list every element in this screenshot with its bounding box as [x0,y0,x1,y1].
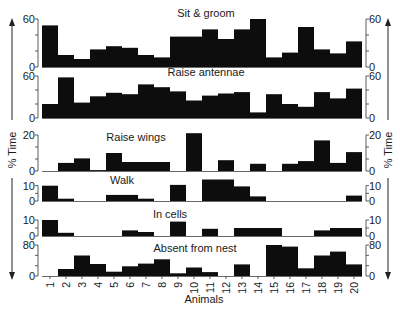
arrow-down-icon [385,272,391,280]
bar [122,195,138,201]
y-tick-label: 0 [369,195,375,207]
x-axis-title: Animals [184,293,224,305]
bar [138,162,154,171]
x-tick-label: 1 [44,282,56,288]
bar [106,272,122,276]
bar [314,49,330,67]
bar [314,92,330,118]
y-tick-label: 0 [369,165,375,177]
x-tick-label: 16 [284,282,296,294]
bar [250,196,266,201]
bar [266,228,282,236]
y-tick-label: 60 [23,13,35,25]
bar [266,57,282,67]
x-tick-label: 17 [300,282,312,294]
x-tick-label: 10 [188,282,200,294]
y-tick-label: 20 [369,129,381,141]
multi-panel-bar-chart: 060060Sit & groom060060Raise antennae020… [0,0,400,313]
panel-title: Absent from nest [153,242,236,254]
bar [122,230,138,236]
panel-title: In cells [153,208,188,220]
bar [234,264,250,276]
y-tick-label: 10 [23,180,35,192]
bar [58,163,74,171]
bar [346,264,362,276]
bar [314,256,330,277]
x-tick-label: 15 [268,282,280,294]
x-axis: 1234567891011121314151617181920 [44,276,360,294]
bar [42,25,58,67]
bar [58,233,74,236]
bar [298,161,314,171]
bar [282,164,298,171]
y-tick-label: 60 [369,13,381,25]
bar [106,93,122,118]
arrow-down-icon [9,272,15,280]
bar [154,259,170,276]
y-tick-label: 80 [23,239,35,251]
bar [330,163,346,171]
bar [250,19,266,67]
bar [170,91,186,118]
bar [42,104,58,118]
bar [202,229,218,236]
bar [234,29,250,67]
bar [186,101,202,119]
bar [314,230,330,236]
bar [58,199,74,201]
bar [298,107,314,118]
bar [330,228,346,236]
bar [90,264,106,276]
bar [170,185,186,201]
panel-absent-from-nest: 080080Absent from nest [23,239,382,282]
bar [234,92,250,118]
bar [346,196,362,201]
bar [186,133,202,171]
bar [234,228,250,236]
bar [330,252,346,276]
bar [90,96,106,118]
bar [138,84,154,118]
bar [122,266,138,276]
y-tick-label: 0 [29,112,35,124]
bar [74,59,90,67]
y-tick-label: 10 [23,214,35,226]
bar [138,55,154,67]
arrow-up-icon [385,18,391,26]
y-tick-label: 0 [29,165,35,177]
bar [346,89,362,118]
bar [74,103,90,118]
bar [122,162,138,171]
bar [330,53,346,67]
bar [170,37,186,67]
x-tick-label: 8 [156,282,168,288]
bar [218,160,234,171]
y-tick-label: 0 [29,270,35,282]
bar [74,158,90,171]
y-tick-label: 0 [369,112,375,124]
bar [330,98,346,118]
y-tick-label: 10 [369,180,381,192]
x-tick-label: 13 [236,282,248,294]
bar [122,48,138,67]
x-tick-label: 11 [204,282,216,293]
bar [122,94,138,118]
bar [42,186,58,201]
bar [250,228,266,236]
x-tick-label: 2 [60,282,72,288]
bar [106,195,122,201]
bar [170,273,186,276]
bar [346,152,362,171]
bar [218,94,234,119]
x-tick-label: 14 [252,282,264,294]
panel-title: Raise wings [106,131,166,143]
bar [90,49,106,67]
bar [74,256,90,277]
panel-title: Raise antennae [167,66,244,78]
bar [202,29,218,67]
bar [266,245,282,276]
bar [298,27,314,67]
y-tick-label: 60 [369,70,381,82]
bar [250,164,266,171]
panel-title: Sit & groom [177,7,234,19]
